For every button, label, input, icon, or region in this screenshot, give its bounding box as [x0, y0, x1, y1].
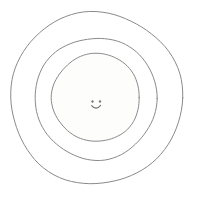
right-eye-icon: [99, 101, 101, 103]
left-eye-icon: [92, 101, 94, 103]
concentric-circles-diagram: Concentric circles with smiley face at c…: [0, 0, 198, 214]
diagram-canvas: Concentric circles with smiley face at c…: [0, 0, 198, 214]
